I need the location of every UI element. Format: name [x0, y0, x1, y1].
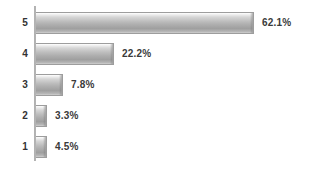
category-label: 2 — [0, 111, 28, 121]
bar-value-label: 4.5% — [55, 142, 79, 152]
bar-value-label: 7.8% — [71, 80, 95, 90]
bar-row: 2 3.3% — [0, 101, 316, 131]
bar[interactable] — [36, 105, 47, 127]
category-label: 5 — [0, 18, 28, 28]
bar-group: 62.1% — [36, 12, 291, 34]
bar-row: 4 22.2% — [0, 39, 316, 69]
plot-area: 5 62.1% 4 22.2% 3 7.8% 2 3.3% — [0, 0, 316, 171]
bar-row: 3 7.8% — [0, 70, 316, 100]
bar-value-label: 3.3% — [55, 111, 79, 121]
bar[interactable] — [36, 136, 47, 158]
bar-value-label: 22.2% — [122, 49, 151, 59]
category-label: 3 — [0, 80, 28, 90]
bar-row: 1 4.5% — [0, 132, 316, 162]
bar[interactable] — [36, 74, 63, 96]
bar[interactable] — [36, 43, 114, 65]
bar-group: 3.3% — [36, 105, 79, 127]
bar-group: 22.2% — [36, 43, 151, 65]
bar-value-label: 62.1% — [262, 18, 291, 28]
bar-group: 7.8% — [36, 74, 95, 96]
bar-group: 4.5% — [36, 136, 79, 158]
category-label: 4 — [0, 49, 28, 59]
bar-chart: 5 62.1% 4 22.2% 3 7.8% 2 3.3% — [0, 0, 316, 171]
category-label: 1 — [0, 142, 28, 152]
bar-row: 5 62.1% — [0, 8, 316, 38]
bar[interactable] — [36, 12, 254, 34]
